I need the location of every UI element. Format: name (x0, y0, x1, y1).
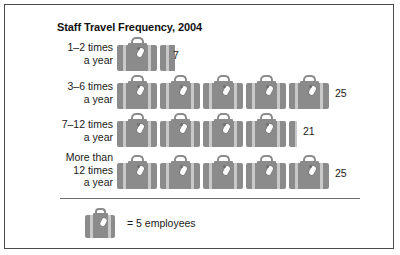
suitcase-icon (117, 113, 157, 147)
legend-label: = 5 employees (127, 217, 196, 229)
suitcase-icon (203, 155, 243, 189)
row-value: 25 (335, 167, 347, 179)
suitcase-icon (246, 113, 286, 147)
row-label-line: a year (15, 93, 113, 106)
row-value: 25 (335, 87, 347, 99)
row-label-line: a year (15, 176, 113, 189)
suitcase-icon (246, 155, 286, 189)
row-label-line: 7–12 times (15, 118, 113, 131)
page-title: Staff Travel Frequency, 2004 (57, 21, 202, 33)
row-label: 7–12 times a year (15, 118, 113, 143)
icon-strip (117, 37, 178, 75)
suitcase-icon (117, 155, 157, 189)
legend: = 5 employees (85, 208, 196, 238)
row-label-line: a year (15, 131, 113, 144)
icon-strip (117, 155, 332, 193)
suitcase-icon (289, 155, 329, 189)
icon-strip (117, 75, 332, 113)
row-label: 1–2 times a year (15, 41, 113, 66)
row-label: 3–6 times a year (15, 80, 113, 105)
suitcase-icon (160, 75, 200, 109)
pictograph-row: 1–2 times a year 7 (5, 37, 393, 75)
suitcase-icon (160, 113, 200, 147)
pictograph-row: 7–12 times a year 21 (5, 113, 393, 151)
suitcase-icon (117, 37, 157, 71)
row-label: More than 12 times a year (15, 151, 113, 189)
suitcase-icon (117, 75, 157, 109)
suitcase-icon-partial (289, 113, 297, 147)
row-label-line: a year (15, 54, 113, 67)
suitcase-icon (203, 75, 243, 109)
chart-frame: Staff Travel Frequency, 2004 1–2 times a… (4, 4, 394, 249)
pictograph-row: More than 12 times a year 25 (5, 149, 393, 187)
pictograph-row: 3–6 times a year 25 (5, 75, 393, 113)
row-label-line: 3–6 times (15, 80, 113, 93)
suitcase-icon (160, 155, 200, 189)
suitcase-icon (203, 113, 243, 147)
suitcase-icon (85, 208, 115, 238)
row-value: 21 (303, 125, 315, 137)
legend-divider (60, 198, 360, 199)
suitcase-icon (289, 75, 329, 109)
row-label-line: More than (15, 151, 113, 164)
row-value: 7 (173, 49, 179, 61)
icon-strip (117, 113, 300, 151)
suitcase-icon (246, 75, 286, 109)
row-label-line: 12 times (15, 164, 113, 177)
row-label-line: 1–2 times (15, 41, 113, 54)
